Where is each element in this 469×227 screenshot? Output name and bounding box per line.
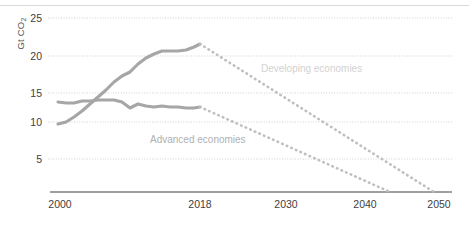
series-line-advanced-historical (58, 100, 200, 108)
series-label-developing: Developing economies (261, 63, 362, 74)
series-label-advanced: Advanced economies (150, 134, 246, 145)
chart-container: Gt CO2 25 20 15 10 5 2000 2018 2030 2040… (0, 0, 469, 227)
plot-area (0, 0, 469, 227)
series-line-advanced-projection (200, 107, 390, 192)
